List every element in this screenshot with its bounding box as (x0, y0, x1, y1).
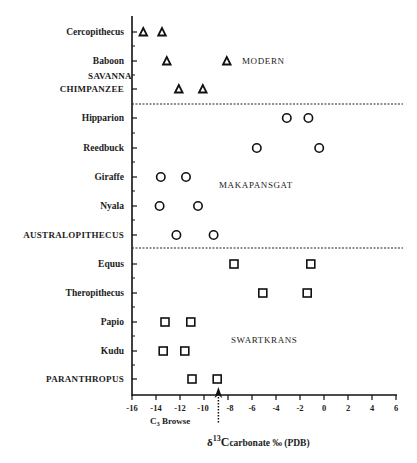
row-label-nyala: Nyala (100, 201, 124, 211)
row-label-australopithecus: AUSTRALOPITHECUS (23, 230, 124, 240)
square-marker (159, 347, 167, 355)
circle-marker (172, 231, 180, 239)
group-label-modern: MODERN (242, 56, 285, 66)
series-swartkrans-squares (159, 260, 315, 383)
row-label-equus: Equus (98, 259, 124, 269)
x-tick-labels: -16 -14 -12 -10 -8 -6 -4 -2 0 2 4 6 (126, 403, 398, 413)
square-marker (181, 347, 189, 355)
x-tick-label: -10 (197, 403, 208, 413)
isotope-scatter-chart: -16 -14 -12 -10 -8 -6 -4 -2 0 2 4 6 Cerc… (0, 0, 417, 463)
x-tick-label: -6 (248, 403, 255, 413)
x-tick-label: -12 (174, 403, 185, 413)
arrow-head-icon (215, 387, 223, 398)
circle-marker (155, 202, 163, 210)
x-tick-label: 0 (322, 403, 326, 413)
row-label-savanna: SAVANNA (88, 71, 132, 81)
triangle-marker (158, 28, 166, 36)
row-label-papio: Papio (101, 317, 124, 327)
triangle-marker (140, 28, 148, 36)
x-axis-title-rest: carbonate ‰ (PDB) (229, 438, 309, 449)
circle-marker (157, 173, 165, 181)
square-marker (213, 375, 221, 383)
circle-marker (315, 144, 323, 152)
x-tick-label: -14 (150, 403, 162, 413)
circle-marker (209, 231, 217, 239)
c3-browse-label: C3 Browse (150, 416, 190, 427)
series-makapansgat-circles (155, 114, 323, 239)
x-tick-label: -4 (272, 403, 280, 413)
row-label-hipparion: Hipparion (82, 113, 125, 123)
circle-marker (194, 202, 202, 210)
row-label-chimpanzee: CHIMPANZEE (60, 84, 124, 94)
x-tick-label: -16 (126, 403, 137, 413)
circle-marker (304, 114, 312, 122)
group-label-swartkrans: SWARTKRANS (231, 335, 297, 345)
x-tick-label: 6 (394, 403, 398, 413)
row-label-giraffe: Giraffe (94, 172, 124, 182)
square-marker (303, 289, 311, 297)
c3-browse-text: Browse (160, 416, 191, 426)
x-tick-label: -8 (226, 403, 233, 413)
square-marker (307, 260, 315, 268)
row-label-theropithecus: Theropithecus (66, 288, 125, 298)
c3-browse-arrow (215, 387, 223, 424)
x-axis-title: δ13Ccarbonate ‰ (PDB) (207, 434, 310, 449)
square-marker (187, 318, 195, 326)
row-label-kudu: Kudu (101, 346, 125, 356)
group-label-makapansgat: MAKAPANSGAT (219, 180, 293, 190)
circle-marker (253, 144, 261, 152)
row-labels: Cercopithecus Baboon SAVANNA CHIMPANZEE … (23, 27, 132, 384)
circle-marker (283, 114, 291, 122)
square-marker (230, 260, 238, 268)
row-label-baboon: Baboon (93, 56, 125, 66)
x-axis-title-c: C (221, 435, 230, 449)
x-tick-label: 2 (346, 403, 350, 413)
row-label-cercopithecus: Cercopithecus (66, 27, 124, 37)
square-marker (259, 289, 267, 297)
series-modern-triangles (140, 28, 231, 93)
circle-marker (182, 173, 190, 181)
x-tick-label: -2 (296, 403, 303, 413)
triangle-marker (163, 57, 171, 65)
square-marker (161, 318, 169, 326)
triangle-marker (199, 85, 207, 93)
x-tick-label: 4 (370, 403, 375, 413)
row-label-paranthropus: PARANTHROPUS (46, 374, 124, 384)
triangle-marker (223, 57, 231, 65)
triangle-marker (175, 85, 183, 93)
x-axis-title-superscript: 13 (213, 434, 221, 443)
row-label-reedbuck: Reedbuck (83, 143, 124, 153)
square-marker (188, 375, 196, 383)
